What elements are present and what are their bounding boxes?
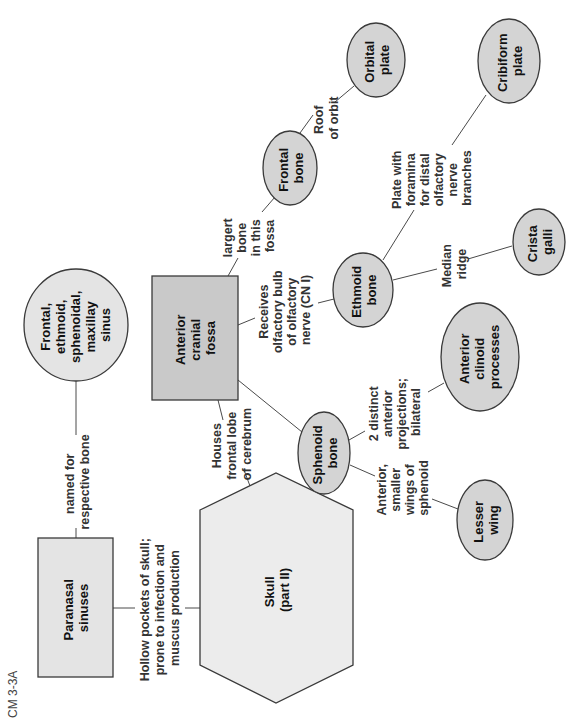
edge-ethmoid-cribiform-b	[452, 95, 486, 145]
svg-text:Plate with foramina: Plate with foramina for distal olfactory…	[390, 147, 474, 209]
edge-label: bone	[235, 223, 249, 253]
node-frontal-bone: Frontal bone	[263, 131, 317, 205]
node-anterior-cranial-fossa: Anterior cranial fossa	[152, 276, 238, 400]
edge-label: smaller	[389, 468, 403, 512]
node-paranasal-sinuses: Paranasal sinuses	[38, 538, 113, 677]
node-label: ethmoid,	[53, 300, 68, 354]
edge-sphenoid-lesser-b	[432, 499, 458, 509]
edge-label-ethmoid-cribiform: Plate with foramina for distal olfactory…	[390, 147, 474, 209]
node-orbital-plate: Orbital plate	[347, 23, 405, 97]
node-label: plate	[510, 46, 525, 76]
svg-text:Anterior, smaller: Anterior, smaller wings of sphenoid	[375, 460, 431, 516]
edge-label: respective bone	[78, 434, 92, 529]
svg-text:largert bone in th: largert bone in this fossa	[221, 215, 277, 257]
svg-text:Receives olfactory bulb: Receives olfactory bulb of olfactory ner…	[257, 267, 313, 353]
edge-fossa-ethmoid-a	[238, 318, 255, 325]
edge-label: nerve	[446, 163, 460, 196]
edge-label-fossa-ethmoid: Receives olfactory bulb of olfactory ner…	[257, 267, 313, 353]
figure-label: CM 3-3A	[6, 671, 20, 718]
node-label: sinus	[98, 308, 113, 342]
svg-text:Skull (part II): Skull (part II)	[262, 568, 292, 612]
node-label: Skull	[262, 576, 277, 607]
node-label: bone	[364, 274, 379, 305]
edge-label: 2 distinct	[367, 385, 381, 441]
edge-fossa-frontal-b	[262, 197, 275, 212]
node-label: plate	[377, 45, 392, 75]
node-label: Ethmoid	[349, 266, 364, 318]
node-label: Orbital	[362, 41, 377, 83]
edge-label-ethmoid-crista: Median ridge	[440, 241, 469, 288]
node-cribiform-plate: Cribiform plate	[478, 19, 540, 103]
node-label: Frontal	[276, 148, 291, 192]
edge-label: Receives	[257, 285, 271, 339]
edge-label: foramina	[404, 152, 418, 206]
svg-text:2 distinct anterior: 2 distinct anterior projections; bilater…	[367, 374, 423, 449]
edge-label: olfactory bulb	[271, 270, 285, 353]
node-label: Paranasal	[61, 579, 76, 640]
edge-label: branches	[460, 150, 474, 206]
edge-label: Anterior,	[375, 464, 389, 515]
node-label: clinoid	[472, 338, 487, 380]
edge-label: Hollow pockets of skull;	[138, 538, 152, 681]
svg-text:named for respective bon: named for respective bone	[63, 434, 92, 529]
edge-ethmoid-crista-b	[468, 246, 512, 259]
edge-ethmoid-crista-a	[393, 269, 437, 280]
node-label: maxillay	[83, 300, 98, 352]
node-label: processes	[487, 325, 502, 389]
edge-label: Plate with	[390, 151, 404, 209]
edge-ethmoid-cribiform-a	[383, 210, 414, 260]
node-label: Cribiform	[495, 34, 510, 93]
node-sinus-types: Frontal, ethmoid, sphenoidal, maxillay s…	[24, 269, 128, 381]
edge-sphenoid-lesser-a	[350, 465, 375, 476]
node-label: Frontal,	[38, 303, 53, 351]
concept-map: CM 3-3A Skull (part II)	[0, 0, 578, 720]
edge-label-fossa-frontal: largert bone in this fossa	[221, 215, 277, 257]
node-label: cranial	[188, 319, 203, 361]
edge-fossa-frontal-a	[228, 258, 238, 276]
edge-label: of olfactory	[285, 278, 299, 346]
edge-label: bilateral	[409, 388, 423, 436]
svg-text:Anterior clinoid p: Anterior clinoid processes	[457, 325, 502, 389]
node-label: bone	[325, 437, 340, 468]
node-label: fossa	[203, 320, 218, 355]
edge-label-skull-fossa: Houses frontal lobe of cerebrum	[210, 408, 254, 480]
edge-sphenoid-clinoid-b	[428, 383, 444, 392]
edge-label: for distal	[418, 153, 432, 206]
node-lesser-wing: Lesser wing	[457, 480, 513, 560]
edge-label-sphenoid-lesser: Anterior, smaller wings of sphenoid	[375, 460, 431, 516]
edge-label: fossa	[263, 219, 277, 253]
edge-label: Roof	[312, 105, 326, 134]
edge-label: ridge	[455, 249, 469, 280]
node-label: galli	[540, 229, 555, 255]
edge-label: prone to infection and	[153, 544, 167, 675]
svg-text:Hollow pockets of skull;: Hollow pockets of skull; prone to infect…	[138, 535, 182, 682]
edge-label: sphenoid	[417, 460, 431, 516]
edge-label: in this	[249, 219, 263, 256]
node-label: wing	[486, 505, 501, 536]
node-crista-galli: Crista galli	[513, 209, 565, 275]
node-label: sinuses	[76, 584, 91, 632]
edge-skull-fossa-b	[218, 400, 223, 420]
node-label: Crista	[525, 225, 540, 263]
node-label: Sphenoid	[310, 425, 325, 484]
svg-text:Houses frontal lobe: Houses frontal lobe of cerebrum	[210, 408, 254, 480]
node-sphenoid-bone: Sphenoid bone	[298, 412, 350, 494]
edge-label: of cerebrum	[240, 408, 254, 480]
svg-text:Roof of orbit: Roof of orbit	[312, 96, 341, 140]
node-anterior-clinoid: Anterior clinoid processes	[441, 303, 519, 411]
node-skull: Skull (part II)	[200, 473, 353, 703]
edge-label: Median	[440, 244, 454, 287]
edge-label-sphenoid-clinoid: 2 distinct anterior projections; bilater…	[367, 374, 423, 449]
edge-label: frontal lobe	[225, 412, 239, 480]
node-label: Anterior	[173, 315, 188, 366]
edge-label: of orbit	[327, 96, 341, 140]
edge-label: olfactory	[432, 153, 446, 206]
node-label: (part II)	[277, 568, 292, 612]
edge-label: named for	[63, 453, 77, 514]
edge-label: nerve (CN I)	[299, 275, 313, 345]
edge-label: Houses	[210, 423, 224, 468]
edge-label: largert	[221, 217, 235, 257]
edge-label: projections;	[395, 378, 409, 450]
edge-fossa-ethmoid-b	[318, 299, 334, 303]
edge-sphenoid-clinoid-a	[349, 431, 365, 440]
